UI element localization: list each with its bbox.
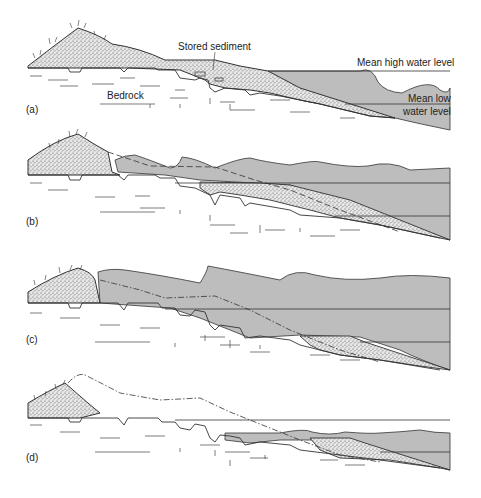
bedrock-label: Bedrock	[107, 90, 145, 101]
bedrock-strata	[30, 425, 365, 466]
panel-label-c: (c)	[26, 334, 38, 345]
panel-label-b: (b)	[26, 216, 38, 227]
mean-high-water-label: Mean high water level	[357, 57, 454, 68]
panel-a: Stored sediment Bedrock Mean high water …	[26, 20, 454, 130]
mean-low-water-label-2: water level	[402, 106, 451, 117]
mean-low-water-label-1: Mean low	[408, 93, 452, 104]
panel-d: (d)	[26, 374, 450, 470]
sediment-dune	[28, 134, 120, 175]
panel-label-d: (d)	[26, 452, 38, 463]
panel-label-a: (a)	[26, 104, 38, 115]
panel-b: (b)	[26, 129, 450, 240]
sediment-dune	[28, 383, 100, 418]
sediment-dune	[28, 268, 100, 303]
stored-sediment-label: Stored sediment	[178, 41, 251, 52]
panel-c: (c)	[26, 265, 450, 370]
coastal-erosion-diagram: Stored sediment Bedrock Mean high water …	[0, 0, 481, 498]
